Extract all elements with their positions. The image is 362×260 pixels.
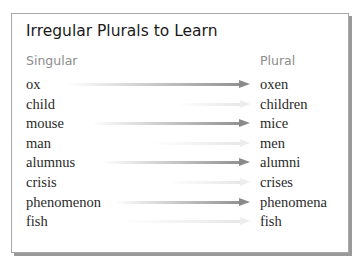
irregular-plurals-box: Irregular Plurals to Learn Singular Plur… [11,13,349,253]
singular-word: fish [26,213,48,230]
list-item: crisiscrises [12,174,348,194]
list-item: mousemice [12,115,348,135]
arrow-head [239,80,250,88]
plural-word: fish [260,213,282,230]
arrow-shaft [102,161,240,164]
right-arrow-icon [122,219,250,224]
list-item: manmen [12,135,348,155]
list-item: phenomenonphenomena [12,194,348,214]
plural-word: men [260,135,285,152]
arrow-head [239,198,250,206]
list-item: alumnusalumni [12,154,348,174]
arrow-head [239,158,250,166]
list-item: oxoxen [12,76,348,96]
arrow-shaft [177,103,240,106]
singular-word: phenomenon [26,194,101,211]
plural-word: alumni [260,154,300,171]
arrow-shaft [92,122,240,125]
plural-word: mice [260,115,288,132]
arrow-head [240,217,250,225]
arrow-head [239,119,250,127]
arrow-shaft [167,181,240,184]
arrow-head [240,100,250,108]
arrow-shaft [67,83,240,86]
singular-word: ox [26,76,41,93]
arrow-shaft [115,201,240,204]
plural-word: children [260,96,308,113]
arrow-head [240,178,250,186]
singular-word: alumnus [26,154,75,171]
right-arrow-icon [115,200,250,205]
box-title: Irregular Plurals to Learn [26,22,217,40]
plural-word: oxen [260,76,288,93]
list-item: childchildren [12,96,348,116]
singular-word: crisis [26,174,57,191]
column-header-singular: Singular [26,53,77,68]
list-item: fishfish [12,213,348,233]
singular-word: child [26,96,55,113]
right-arrow-icon [152,141,250,146]
arrow-shaft [152,142,240,145]
right-arrow-icon [167,180,250,185]
right-arrow-icon [177,102,250,107]
singular-word: man [26,135,51,152]
singular-word: mouse [26,115,64,132]
plural-word: crises [260,174,293,191]
column-header-plural: Plural [260,53,295,68]
plural-word: phenomena [260,194,327,211]
right-arrow-icon [92,121,250,126]
arrow-shaft [122,220,240,223]
arrow-head [240,139,250,147]
right-arrow-icon [102,160,250,165]
right-arrow-icon [67,82,250,87]
